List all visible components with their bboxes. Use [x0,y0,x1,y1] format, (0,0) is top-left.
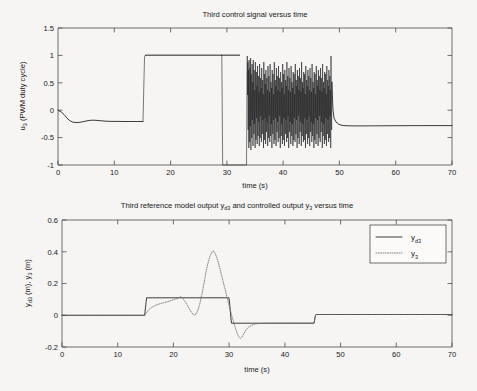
bottom-xtick-7: 60 [392,350,400,359]
top-ytick-5: -0.5 [41,133,54,142]
bottom-ytick-3: 0.2 [47,279,58,288]
bottom-title-part2: and controlled output y [230,201,309,210]
top-signal-transient [58,110,143,122]
legend-box [370,225,446,263]
top-plot-ylabel-group: u3 (PWM duty cycle) [18,61,28,130]
bottom-ytick-4: 0 [54,311,58,320]
bottom-xtick-4: 30 [225,350,233,359]
bottom-plot: Third reference model output yd3 and con… [23,201,456,374]
bottom-xtick-2: 10 [113,350,121,359]
top-ytick-4: 0 [50,106,54,115]
top-ylabel-rest: (PWM duty cycle) [18,61,27,123]
top-plot-title: Third control signal versus time [202,10,307,19]
bottom-title-part3: versus time [312,201,353,210]
top-xtick-6: 50 [335,168,343,177]
bottom-plot-xlabel: time (s) [244,365,270,374]
top-signal-settle [332,82,452,126]
svg-text:u3 (PWM duty cycle): u3 (PWM duty cycle) [18,61,28,130]
bottom-xtick-6: 50 [336,350,344,359]
series-y3-line [62,251,452,339]
bottom-ytick-1: 0.6 [47,216,58,225]
top-ytick-6: -1 [47,161,54,170]
bottom-ytick-5: -0.2 [45,343,58,352]
svg-text:yd3 (m), y3 (m): yd3 (m), y3 (m) [23,259,33,307]
bottom-ylabel-mid: (m), y [23,275,32,297]
top-xtick-5: 40 [279,168,287,177]
top-xtick-7: 60 [391,168,399,177]
top-plot-xlabel: time (s) [242,181,268,190]
top-signal-pulse [143,55,240,121]
top-signal-chaotic [247,56,332,165]
bottom-xtick-1: 0 [60,350,64,359]
bottom-xtick-5: 40 [281,350,289,359]
bottom-xtick-3: 20 [169,350,177,359]
top-signal-pulse-fall [222,55,223,165]
bottom-plot-legend: yd3 y3 [370,225,446,263]
bottom-title-part1: Third reference model output y [121,201,225,210]
top-xtick-8: 70 [448,168,456,177]
top-xtick-1: 0 [56,168,60,177]
top-plot: Third control signal versus time 1.5 1 [18,10,456,190]
top-xtick-2: 10 [110,168,118,177]
bottom-ylabel-end: (m) [23,259,32,273]
figure-container: Third control signal versus time 1.5 1 [0,0,477,391]
top-ytick-2: 1 [50,51,54,60]
bottom-xtick-8: 70 [448,350,456,359]
top-xtick-3: 20 [166,168,174,177]
top-xtick-4: 30 [223,168,231,177]
top-ytick-1: 1.5 [43,24,54,33]
bottom-plot-title: Third reference model output yd3 and con… [121,201,353,211]
series-yd3-line [62,298,452,323]
plots-svg: Third control signal versus time 1.5 1 [0,0,477,391]
bottom-ytick-2: 0.4 [47,248,58,257]
top-ytick-3: 0.5 [43,79,54,88]
bottom-plot-ylabel-group: yd3 (m), y3 (m) [23,259,33,307]
